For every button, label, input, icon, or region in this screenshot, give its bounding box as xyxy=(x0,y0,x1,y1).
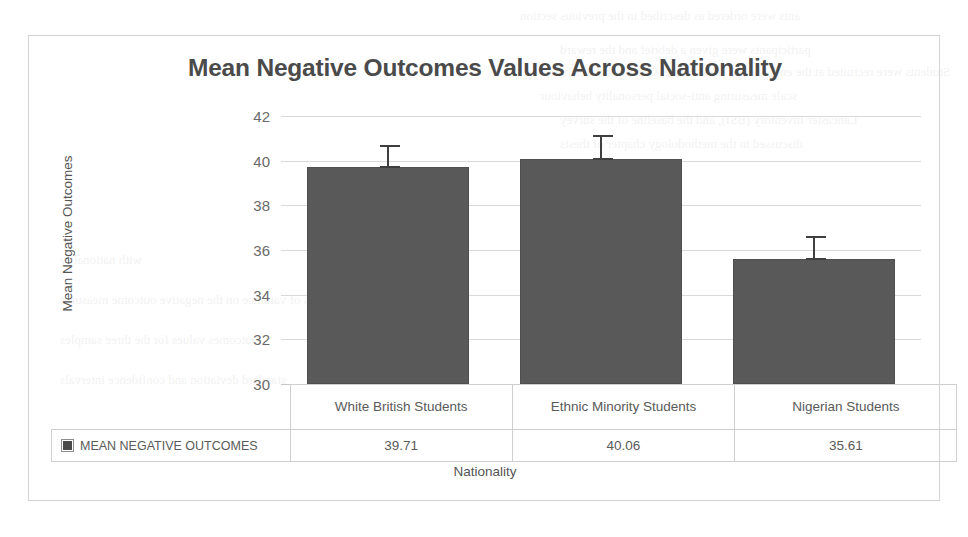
legend-series-label: MEAN NEGATIVE OUTCOMES xyxy=(80,439,258,453)
bar-slot xyxy=(281,116,494,384)
table-row-values: MEAN NEGATIVE OUTCOMES 39.7140.0635.61 xyxy=(52,430,957,462)
table-value-cell: 35.61 xyxy=(735,430,957,462)
y-axis-tick-label: 42 xyxy=(234,108,270,125)
square-marker-icon xyxy=(62,440,73,451)
table-row-categories: White British StudentsEthnic Minority St… xyxy=(52,385,957,430)
y-axis-tick-labels: 42403836343230 xyxy=(234,116,270,384)
table-category-cell: Nigerian Students xyxy=(735,385,957,430)
error-bar-cap-top xyxy=(593,135,613,137)
plot-area xyxy=(281,116,921,384)
bar[interactable] xyxy=(520,159,682,384)
y-axis-tick-label: 32 xyxy=(234,331,270,348)
error-bar-cap-top xyxy=(380,145,400,147)
y-axis-tick-label: 34 xyxy=(234,286,270,303)
error-bar-cap-top xyxy=(806,236,826,238)
error-bar-cap-bottom xyxy=(593,158,613,160)
y-axis-tick-label: 38 xyxy=(234,197,270,214)
table-corner-cell xyxy=(52,385,291,430)
chart-container: Mean Negative Outcomes Values Across Nat… xyxy=(28,35,940,501)
y-axis-title: Mean Negative Outcomes xyxy=(60,134,75,334)
table-value-cell: 39.71 xyxy=(290,430,512,462)
bar-slot xyxy=(494,116,707,384)
error-bar-cap-bottom xyxy=(806,258,826,260)
x-axis-title: Nationality xyxy=(29,464,941,479)
table-category-cell: Ethnic Minority Students xyxy=(512,385,734,430)
table-value-cell: 40.06 xyxy=(512,430,734,462)
y-axis-tick-label: 36 xyxy=(234,242,270,259)
error-bar xyxy=(387,146,389,167)
error-bar-cap-bottom xyxy=(380,166,400,168)
chart-data-table: White British StudentsEthnic Minority St… xyxy=(51,384,957,462)
table-category-cell: White British Students xyxy=(290,385,512,430)
bar-slot xyxy=(708,116,921,384)
y-axis-tick-label: 40 xyxy=(234,152,270,169)
error-bar xyxy=(813,237,815,258)
bar[interactable] xyxy=(733,259,895,384)
error-bar xyxy=(600,136,602,159)
bar[interactable] xyxy=(307,167,469,384)
legend-entry: MEAN NEGATIVE OUTCOMES xyxy=(52,430,291,462)
